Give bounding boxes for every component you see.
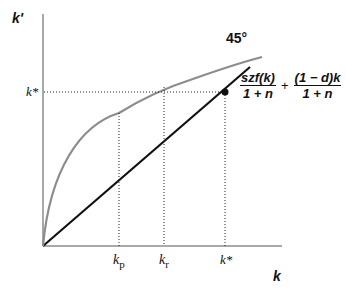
kstar-y-label: k*	[26, 84, 38, 100]
diagram-canvas	[0, 0, 346, 292]
steady-state-point	[222, 89, 229, 96]
formula-den1: 1 + n	[243, 86, 273, 101]
kp-label: kp	[113, 252, 125, 270]
kr-label: kr	[159, 252, 169, 270]
formula-plus: +	[281, 78, 289, 93]
formula: szf(k) 1 + n + (1 − d)k 1 + n	[240, 70, 341, 101]
formula-den2: 1 + n	[302, 86, 332, 101]
y-axis-label: k'	[12, 10, 23, 26]
formula-num2: (1 − d)k	[294, 70, 342, 86]
formula-num1: szf(k)	[240, 70, 276, 86]
kp-label-sub: p	[119, 258, 125, 270]
x-axis-label: k	[273, 268, 281, 284]
angle-label: 45°	[226, 30, 247, 46]
kr-label-sub: r	[165, 258, 169, 270]
45-degree-line	[43, 67, 250, 246]
kstar-x-label: k*	[220, 252, 232, 268]
